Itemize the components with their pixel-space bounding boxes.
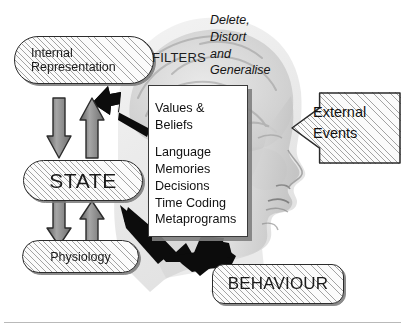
node-behaviour-label: BEHAVIOUR [228,274,329,293]
filter-processes-text: Delete, Distort and Generalise [210,12,270,79]
filter-process-1: Distort [210,29,270,46]
node-internal-representation-line2: Representation [31,60,116,74]
filter-item-time-coding: Time Coding [155,195,247,212]
filter-item-metaprograms: Metaprograms [155,211,247,228]
node-internal-representation-line1: Internal [31,46,73,60]
arrow-down-icon [46,96,72,160]
filter-item-memories: Memories [155,161,247,178]
external-events-line2: Events [313,123,399,144]
filter-item-decisions: Decisions [155,178,247,195]
filter-item-spacer [155,133,247,144]
filters-list-panel: Values & Beliefs Language Memories Decis… [148,85,248,237]
filter-process-3: Generalise [210,62,270,79]
node-physiology[interactable]: Physiology [22,240,139,273]
diagram-canvas: Internal Representation STATE Physiology… [0,0,405,333]
filter-item-language: Language [155,144,247,161]
node-state-label: STATE [49,169,117,193]
bottom-divider [4,322,401,323]
filter-process-0: Delete, [210,12,270,29]
node-physiology-label: Physiology [50,250,110,264]
filters-heading: FILTERS [152,50,206,65]
node-state[interactable]: STATE [23,160,143,201]
node-behaviour[interactable]: BEHAVIOUR [212,264,344,304]
filter-process-2: and [210,46,270,63]
filter-item-values-and: Values & [155,100,247,117]
external-events-label: External Events [313,102,399,144]
external-events-line1: External [313,102,399,123]
arrow-up-icon [79,96,105,160]
node-internal-representation[interactable]: Internal Representation [14,36,154,84]
filter-item-beliefs: Beliefs [155,117,247,134]
